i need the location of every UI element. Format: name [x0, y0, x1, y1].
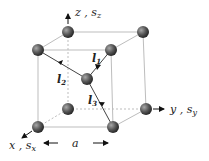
lattice-vectors — [38, 50, 113, 127]
atom-back-top-left — [62, 26, 74, 38]
lattice-constant-label: a — [72, 137, 79, 150]
vector-l2 — [38, 50, 87, 79]
atom-back-bottom-right — [140, 103, 152, 115]
atom-back-top-right — [137, 26, 149, 38]
z-axis-label: z , sz — [74, 6, 102, 20]
atom-front-top-right — [105, 44, 117, 56]
atom-center — [81, 73, 93, 85]
vector-l2-label: l2 — [57, 73, 66, 87]
bcc-cube-diagram: z , sz y , sy x , sx a l1 l2 l3 — [0, 0, 209, 161]
atom-front-bottom-left — [32, 121, 44, 133]
vector-l1-label: l1 — [92, 52, 101, 66]
y-axis-label: y , sy — [169, 103, 197, 117]
atom-front-top-left — [32, 44, 44, 56]
x-axis — [22, 131, 32, 138]
atom-back-bottom-left — [62, 103, 74, 115]
atom-front-bottom-right — [107, 121, 119, 133]
x-axis-label: x , sx — [9, 139, 36, 153]
atoms — [32, 26, 152, 133]
